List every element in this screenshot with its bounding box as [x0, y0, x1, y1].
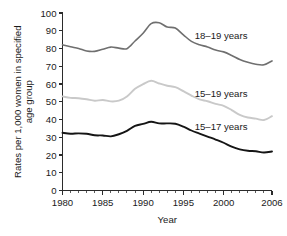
y-axis-tick-label: 10: [46, 167, 57, 178]
y-axis-tick-label: 50: [46, 96, 57, 107]
chart-figure: 0102030405060708090100198019851990199520…: [0, 0, 287, 236]
x-axis-tick-label: 1985: [92, 197, 113, 208]
line-chart: 0102030405060708090100198019851990199520…: [0, 0, 287, 236]
x-axis-tick-label: 2000: [213, 197, 234, 208]
x-axis-tick-label: 2006: [261, 197, 282, 208]
series-line-15-19-years: [63, 81, 273, 120]
x-axis-title: Year: [158, 214, 178, 225]
y-axis-title: Rates per 1,000 women in specifiedage gr…: [12, 25, 35, 178]
x-axis-tick-label: 1990: [132, 197, 153, 208]
series-annotation-label: 15–19 years: [195, 88, 248, 99]
series-annotation-label: 18–19 years: [195, 30, 248, 41]
y-axis-tick-label: 30: [46, 132, 57, 143]
y-axis-tick-label: 100: [40, 8, 56, 19]
x-axis-tick-label: 1995: [173, 197, 194, 208]
y-axis-tick-label: 70: [46, 61, 57, 72]
series-annotation-label: 15–17 years: [195, 121, 248, 132]
y-axis-tick-label: 80: [46, 43, 57, 54]
y-axis-tick-label: 0: [51, 185, 56, 196]
y-axis-tick-label: 40: [46, 114, 57, 125]
y-axis-tick-label: 60: [46, 79, 57, 90]
y-axis-tick-label: 90: [46, 25, 57, 36]
y-axis-tick-label: 20: [46, 150, 57, 161]
x-axis-tick-label: 1980: [52, 197, 73, 208]
